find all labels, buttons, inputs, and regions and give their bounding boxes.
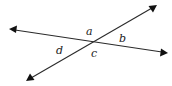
arrowhead-left-icon [9,26,17,34]
line-2 [31,8,152,78]
intersecting-lines-diagram: a b c d [0,0,172,86]
arrowhead-right-icon [160,49,168,57]
angle-label-b: b [119,32,126,45]
angle-label-a: a [86,25,93,38]
angle-label-d: d [56,44,63,57]
angle-label-c: c [91,47,97,60]
